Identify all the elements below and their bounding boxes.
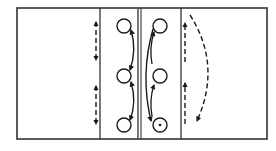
ball-marker-dot <box>159 124 162 127</box>
left-solid-arrow-lower <box>130 82 134 120</box>
player-left-top <box>117 19 131 33</box>
left-solid-arrow-upper <box>130 30 134 70</box>
court-diagram <box>0 0 276 151</box>
right-solid-arrow-bottom <box>151 85 154 116</box>
court-outline <box>17 8 267 139</box>
player-right-top <box>153 19 167 33</box>
right-dashed-curved-arrow <box>190 15 208 121</box>
player-left-middle <box>117 69 131 83</box>
player-right-middle <box>153 69 167 83</box>
diagram-stage <box>0 0 276 151</box>
player-left-bottom <box>117 118 131 132</box>
